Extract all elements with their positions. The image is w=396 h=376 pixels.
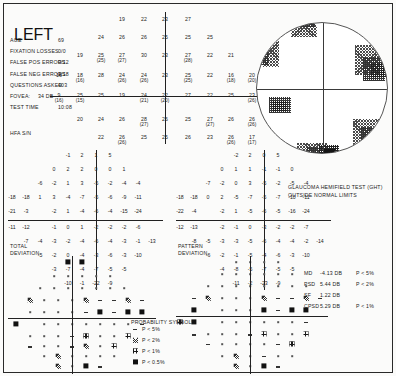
total-deviation-value: -21 xyxy=(8,209,16,215)
sensitivity-retest-value: (20) xyxy=(248,79,257,85)
total-deviation-value: -4 xyxy=(136,181,141,187)
global-index-name-3: CPSD xyxy=(304,303,319,309)
total-deviation-value: -7 xyxy=(66,267,71,273)
pattern-deviation-value: -4 xyxy=(290,239,295,245)
global-index-value-1: 5.44 DB xyxy=(320,281,340,287)
pattern-deviation-value: -5 xyxy=(248,253,253,259)
total-deviation-value: -3 xyxy=(52,239,57,245)
total-deviation-value: 0 xyxy=(53,167,56,173)
ght-result: OUTSIDE NORMAL LIMITS xyxy=(288,192,357,198)
pattern-deviation-value: 1 xyxy=(235,167,238,173)
total-deviation-value: -3 xyxy=(122,239,127,245)
total-deviation-value: -2 xyxy=(52,181,57,187)
grayscale-vertical-meridian xyxy=(323,23,324,154)
legend-label-1: P < 2% xyxy=(142,337,160,343)
sensitivity-value: 24 xyxy=(98,35,104,41)
pattern-deviation-value: -2 xyxy=(220,225,225,231)
pattern-deviation-value: -2 xyxy=(276,225,281,231)
total-deviation-value: 1 xyxy=(67,209,70,215)
total-deviation-value: -4 xyxy=(80,209,85,215)
sensitivity-retest-value: (26) xyxy=(248,99,257,105)
total-deviation-value: -13 xyxy=(148,239,156,245)
total-deviation-value: -15 xyxy=(120,209,128,215)
global-index-prob-0: P < 5% xyxy=(356,270,374,276)
legend-symbol-s1 xyxy=(133,349,138,354)
sensitivity-retest-value: (26) xyxy=(227,141,236,147)
total-deviation-value: 2 xyxy=(81,167,84,173)
sensitivity-vertical-axis xyxy=(165,12,166,144)
total-deviation-value: -2 xyxy=(122,225,127,231)
sensitivity-value: 20 xyxy=(77,117,83,123)
total-deviation-value: -2 xyxy=(108,181,113,187)
total-deviation-value: -12 xyxy=(22,225,30,231)
pattern-deviation-value: -10 xyxy=(302,253,310,259)
total-deviation-value: -24 xyxy=(134,209,142,215)
sensitivity-retest-value: (26) xyxy=(248,123,257,129)
total-deviation-value: -4 xyxy=(80,267,85,273)
total-deviation-value: -1 xyxy=(80,281,85,287)
pattern-deviation-value: -1 xyxy=(234,253,239,259)
pattern-deviation-value: -5 xyxy=(248,209,253,215)
global-index-name-2: SF xyxy=(304,292,311,298)
pattern-deviation-value: 2 xyxy=(249,153,252,159)
sensitivity-value: 25 xyxy=(207,35,213,41)
sensitivity-value: 23 xyxy=(207,135,213,141)
header-value-2: 0/12 xyxy=(58,59,69,65)
sensitivity-retest-value: (27) xyxy=(206,123,215,129)
sensitivity-value: 22 xyxy=(141,17,147,23)
global-index-value-2: 1.22 DB xyxy=(320,292,340,298)
total-deviation-value: -4 xyxy=(80,253,85,259)
pattern-deviation-value: 5 xyxy=(277,153,280,159)
pattern-deviation-value: -4 xyxy=(276,239,281,245)
total-deviation-value: -2 xyxy=(66,239,71,245)
total-deviation-value: -2 xyxy=(108,225,113,231)
sensitivity-retest-value: (26) xyxy=(118,79,127,85)
global-index-value-3: 5.29 DB xyxy=(320,303,340,309)
sensitivity-value: 25 xyxy=(185,117,191,123)
total-deviation-value: 1 xyxy=(67,181,70,187)
header-label-6: TEST TIME xyxy=(10,104,39,110)
sensitivity-value: 19 xyxy=(119,17,125,23)
sensitivity-value: 27 xyxy=(185,17,191,23)
total-deviation-value: -11 xyxy=(8,225,15,231)
sensitivity-retest-value: (25) xyxy=(184,79,193,85)
total-deviation-value: -4 xyxy=(108,239,113,245)
total-deviation-value: 0 xyxy=(67,253,70,259)
legend-label-0: P < 5% xyxy=(142,326,160,332)
pattern-deviation-value: -6 xyxy=(276,253,281,259)
pattern-deviation-value: -3 xyxy=(290,253,295,259)
sensitivity-value: 26 xyxy=(119,35,125,41)
sensitivity-value: 16 xyxy=(56,73,62,79)
pattern-deviation-value: -12 xyxy=(176,225,184,231)
sensitivity-value: 28 xyxy=(98,73,104,79)
sensitivity-retest-value: (25) xyxy=(97,59,106,65)
pattern-deviation-value: -4 xyxy=(192,209,197,215)
pattern-deviation-value: -7 xyxy=(276,195,281,201)
total-deviation-value: -5 xyxy=(122,267,127,273)
pattern-deviation-value: -3 xyxy=(234,239,239,245)
grayscale-map xyxy=(256,22,388,154)
sensitivity-retest-value: (18) xyxy=(227,79,236,85)
total-deviation-value: -4 xyxy=(80,239,85,245)
pattern-deviation-value: -11 xyxy=(232,281,239,287)
pattern-deviation-label-2: DEVIATION xyxy=(178,250,207,256)
grayscale-defect-region xyxy=(301,22,315,27)
pattern-deviation-value: -9 xyxy=(276,281,281,287)
visual-field-report: LEFT AGE69FIXATION LOSSES0/0FALSE POS ER… xyxy=(0,0,396,376)
pattern-deviation-value: -24 xyxy=(302,209,310,215)
pattern-deviation-value: -13 xyxy=(190,225,198,231)
global-index-prob-3: P < 1% xyxy=(356,303,374,309)
total-deviation-value: 0 xyxy=(67,225,70,231)
total-deviation-value: -5 xyxy=(108,267,113,273)
pattern-deviation-horizontal-axis xyxy=(176,220,331,221)
pattern-deviation-value: -3 xyxy=(220,239,225,245)
grayscale-defect-region xyxy=(273,101,287,111)
pattern-deviation-value: -4 xyxy=(220,267,225,273)
total-deviation-value: 1 xyxy=(39,195,42,201)
total-deviation-horizontal-axis xyxy=(8,220,163,221)
pattern-deviation-value: 1 xyxy=(235,209,238,215)
pattern-deviation-value: -7 xyxy=(206,181,211,187)
sensitivity-value: 25 xyxy=(141,135,147,141)
sensitivity-value: 22 xyxy=(207,73,213,79)
pattern-deviation-value: -4 xyxy=(304,181,309,187)
